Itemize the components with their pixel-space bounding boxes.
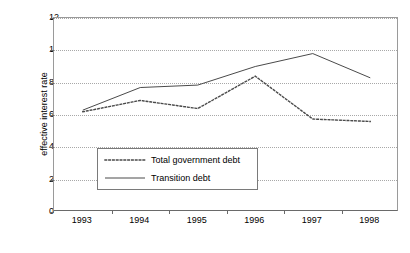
dotted-line-icon — [104, 155, 146, 165]
legend-label: Total government debt — [146, 155, 240, 165]
x-axis-tick-label: 1997 — [302, 216, 322, 225]
legend-label: Transition debt — [146, 173, 210, 183]
y-axis-title: effective interest rate — [39, 72, 49, 155]
x-axis-tick-label: 1995 — [187, 216, 207, 225]
x-axis-tick-label: 1998 — [359, 216, 379, 225]
legend-item: Transition debt — [104, 169, 251, 187]
series-line — [83, 76, 371, 121]
y-axis-tick — [50, 212, 54, 213]
chart-container: effective interest rate 024681012 199319… — [0, 0, 410, 253]
x-axis-tick-label: 1996 — [244, 216, 264, 225]
series-line — [83, 54, 371, 111]
y-axis-title-container: effective interest rate — [0, 17, 16, 211]
solid-line-icon — [104, 173, 146, 183]
chart-legend: Total government debtTransition debt — [97, 148, 258, 190]
x-axis-tick-label: 1994 — [129, 216, 149, 225]
legend-item: Total government debt — [104, 151, 251, 169]
x-axis-tick-label: 1993 — [72, 216, 92, 225]
